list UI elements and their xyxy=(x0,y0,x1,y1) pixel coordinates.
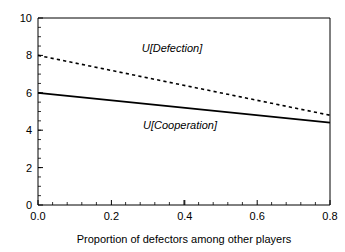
x-tick-label-4: 0.8 xyxy=(322,210,337,222)
x-tick-label-2: 0.4 xyxy=(177,210,192,222)
y-tick-label-8: 8 xyxy=(26,49,32,61)
y-tick-label-2: 2 xyxy=(26,162,32,174)
y-tick-label-4: 4 xyxy=(26,124,32,136)
y-tick-label-10: 10 xyxy=(20,12,32,24)
x-tick-label-3: 0.6 xyxy=(250,210,265,222)
series-label-defection: U[Defection] xyxy=(142,42,203,54)
x-tick-label-0: 0.0 xyxy=(30,210,45,222)
x-tick-label-1: 0.2 xyxy=(104,210,119,222)
series-label-cooperation: U[Cooperation] xyxy=(143,119,218,131)
chart-figure: 0 2 4 6 8 10 0.0 0.2 0.4 0.6 0.8 U[Defec… xyxy=(0,0,345,252)
line-chart: 0 2 4 6 8 10 0.0 0.2 0.4 0.6 0.8 U[Defec… xyxy=(0,0,345,252)
y-tick-label-6: 6 xyxy=(26,87,32,99)
x-axis-title: Proportion of defectors among other play… xyxy=(77,233,292,245)
